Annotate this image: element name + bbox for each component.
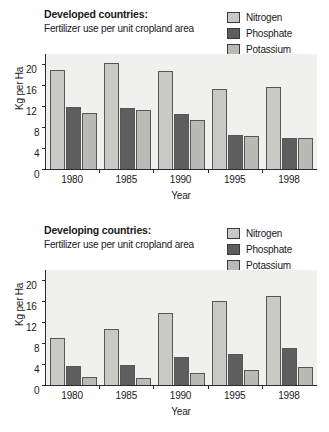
y-tick-mark xyxy=(42,85,46,86)
bar-group xyxy=(266,54,313,169)
y-tick-mark xyxy=(42,322,46,323)
axes xyxy=(45,54,317,170)
bar-group xyxy=(50,54,97,169)
x-tick-label: 1990 xyxy=(170,390,191,401)
bar-potassium-1980 xyxy=(82,113,97,169)
y-tick-mark xyxy=(42,169,46,170)
y-tick-mark xyxy=(42,385,46,386)
bar-nitrogen-1985 xyxy=(104,329,119,385)
legend-label-nitrogen: Nitrogen xyxy=(246,228,282,239)
bar-nitrogen-1990 xyxy=(158,71,173,169)
bar-phosphate-1990 xyxy=(174,357,189,385)
y-tick-mark xyxy=(42,343,46,344)
legend-swatch-phosphate xyxy=(227,28,240,39)
panel-titles: Developing countries: Fertilizer use per… xyxy=(44,224,194,251)
x-tick-mark xyxy=(99,169,100,173)
x-tick-label: 1985 xyxy=(116,390,137,401)
chart-subtitle: Fertilizer use per unit cropland area xyxy=(44,22,194,35)
bar-phosphate-1995 xyxy=(228,135,243,169)
bar-group xyxy=(158,54,205,169)
y-tick-mark xyxy=(42,364,46,365)
y-tick-label: 0 xyxy=(34,385,39,396)
x-tick-label: 1985 xyxy=(116,174,137,185)
x-tick-label: 1990 xyxy=(170,174,191,185)
bar-nitrogen-1980 xyxy=(50,338,65,385)
y-tick-label: 4 xyxy=(34,364,39,375)
bar-phosphate-1980 xyxy=(66,366,81,385)
bars-layer xyxy=(46,270,317,385)
y-tick-label: 12 xyxy=(26,322,37,333)
y-tick-label: 0 xyxy=(34,169,39,180)
bar-potassium-1990 xyxy=(190,120,205,169)
bar-potassium-1980 xyxy=(82,377,97,385)
bar-nitrogen-1990 xyxy=(158,313,173,385)
y-tick-mark xyxy=(42,64,46,65)
y-tick-label: 8 xyxy=(34,343,39,354)
bar-nitrogen-1995 xyxy=(212,89,227,170)
y-tick-label: 12 xyxy=(26,106,37,117)
x-tick-mark xyxy=(153,385,154,389)
x-axis-label: Year xyxy=(45,190,317,201)
y-tick-labels: 048121620 xyxy=(22,50,42,170)
x-axis-line xyxy=(45,169,317,170)
legend-label-phosphate: Phosphate xyxy=(246,244,292,255)
legend-item-nitrogen: Nitrogen xyxy=(227,226,323,241)
y-tick-mark xyxy=(42,106,46,107)
bar-nitrogen-1995 xyxy=(212,301,227,385)
bar-potassium-1998 xyxy=(298,138,313,169)
bar-potassium-1995 xyxy=(244,370,259,385)
legend-item-phosphate: Phosphate xyxy=(227,26,323,41)
x-tick-mark xyxy=(208,169,209,173)
x-tick-labels: 19801985199019951998 xyxy=(45,174,317,188)
bar-potassium-1995 xyxy=(244,136,259,169)
bars-layer xyxy=(46,54,317,169)
bar-nitrogen-1998 xyxy=(266,296,281,385)
x-tick-label: 1980 xyxy=(61,390,82,401)
chart-title: Developing countries: xyxy=(44,224,194,237)
legend-swatch-nitrogen xyxy=(227,228,240,239)
x-tick-label: 1998 xyxy=(278,174,299,185)
bar-potassium-1998 xyxy=(298,367,313,385)
y-tick-label: 16 xyxy=(26,85,37,96)
bar-phosphate-1998 xyxy=(282,138,297,169)
plot-area: Kg per Ha 048121620 19801985199019951998… xyxy=(0,50,329,216)
legend-swatch-phosphate xyxy=(227,244,240,255)
plot-area: Kg per Ha 048121620 19801985199019951998… xyxy=(0,266,329,432)
bar-group xyxy=(266,270,313,385)
y-tick-label: 20 xyxy=(26,64,37,75)
legend-swatch-nitrogen xyxy=(227,12,240,23)
y-tick-mark xyxy=(42,280,46,281)
legend-item-nitrogen: Nitrogen xyxy=(227,10,323,25)
y-tick-labels: 048121620 xyxy=(22,266,42,386)
x-tick-mark xyxy=(262,169,263,173)
bar-phosphate-1985 xyxy=(120,108,135,169)
x-tick-label: 1995 xyxy=(224,174,245,185)
x-tick-mark xyxy=(208,385,209,389)
panel-titles: Developed countries: Fertilizer use per … xyxy=(44,8,194,35)
bar-phosphate-1985 xyxy=(120,365,135,385)
bar-nitrogen-1998 xyxy=(266,87,281,169)
x-tick-label: 1980 xyxy=(61,174,82,185)
chart-panel-developed: Developed countries: Fertilizer use per … xyxy=(0,0,329,216)
bar-group xyxy=(212,54,259,169)
x-axis-line xyxy=(45,385,317,386)
bar-phosphate-1980 xyxy=(66,107,81,169)
x-axis-label: Year xyxy=(45,406,317,417)
y-tick-label: 20 xyxy=(26,280,37,291)
bar-nitrogen-1985 xyxy=(104,63,119,169)
figure-page: Developed countries: Fertilizer use per … xyxy=(0,0,329,432)
bar-group xyxy=(158,270,205,385)
x-tick-mark xyxy=(99,385,100,389)
chart-title: Developed countries: xyxy=(44,8,194,21)
bar-group xyxy=(50,270,97,385)
chart-panel-developing: Developing countries: Fertilizer use per… xyxy=(0,216,329,432)
chart-subtitle: Fertilizer use per unit cropland area xyxy=(44,238,194,251)
panel-header: Developing countries: Fertilizer use per… xyxy=(0,216,329,268)
y-tick-label: 8 xyxy=(34,127,39,138)
bar-phosphate-1995 xyxy=(228,354,243,385)
bar-potassium-1985 xyxy=(136,110,151,169)
x-tick-label: 1995 xyxy=(224,390,245,401)
y-tick-mark xyxy=(42,127,46,128)
x-tick-mark xyxy=(262,385,263,389)
bar-potassium-1990 xyxy=(190,373,205,385)
